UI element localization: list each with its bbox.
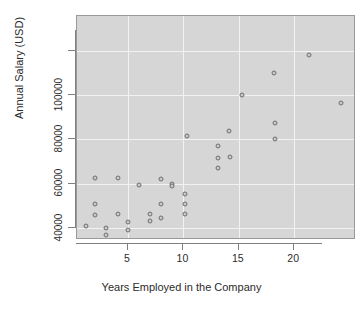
x-axis-line: [76, 243, 322, 244]
data-point: [159, 216, 164, 221]
data-point: [92, 201, 97, 206]
y-axis-tick: [68, 50, 75, 51]
y-axis-tick-label: 100000: [53, 77, 64, 110]
gridline-horizontal: [77, 51, 354, 52]
data-point: [92, 176, 97, 181]
data-point: [83, 223, 88, 228]
data-point: [103, 232, 108, 237]
data-point: [273, 137, 278, 142]
gridline-horizontal: [77, 95, 354, 96]
y-axis-tick-label: 60000: [53, 169, 64, 197]
x-axis-label: Years Employed in the Company: [0, 281, 363, 293]
data-point: [215, 156, 220, 161]
data-point: [227, 155, 232, 160]
data-point: [170, 183, 175, 188]
x-axis-tick-label: 10: [177, 252, 189, 264]
y-axis-tick: [68, 183, 75, 184]
data-point: [306, 53, 311, 58]
data-point: [126, 228, 131, 233]
data-point: [273, 120, 278, 125]
data-point: [272, 70, 277, 75]
x-axis-tick: [238, 243, 239, 250]
x-axis-tick-label: 5: [124, 252, 130, 264]
gridline-vertical: [239, 16, 240, 238]
x-axis-tick-label: 15: [232, 252, 244, 264]
x-axis-tick: [293, 243, 294, 250]
scatter-plot-figure: 5101520400006000080000100000 Years Emplo…: [0, 0, 363, 309]
data-point: [126, 220, 131, 225]
y-axis-tick: [68, 94, 75, 95]
y-axis-tick: [68, 138, 75, 139]
data-point: [148, 219, 153, 224]
data-point: [103, 226, 108, 231]
data-point: [159, 201, 164, 206]
gridline-horizontal: [77, 139, 354, 140]
y-axis-line: [75, 30, 76, 228]
data-point: [116, 211, 121, 216]
data-point: [137, 182, 142, 187]
gridline-vertical: [294, 16, 295, 238]
data-point: [159, 177, 164, 182]
gridline-horizontal: [77, 184, 354, 185]
data-point: [182, 211, 187, 216]
y-axis-tick: [68, 227, 75, 228]
data-point: [338, 100, 343, 105]
gridline-vertical: [128, 16, 129, 238]
gridline-horizontal: [77, 228, 354, 229]
y-axis-label: Annual Salary (USD): [13, 0, 25, 158]
data-point: [182, 201, 187, 206]
data-point: [215, 166, 220, 171]
data-point: [240, 93, 245, 98]
plot-panel: [76, 15, 355, 239]
data-point: [226, 128, 231, 133]
y-axis-tick-label: 40000: [53, 213, 64, 241]
x-axis-tick: [182, 243, 183, 250]
x-axis-tick: [127, 243, 128, 250]
y-axis-tick-label: 80000: [53, 124, 64, 152]
x-axis-tick-label: 20: [287, 252, 299, 264]
data-point: [182, 191, 187, 196]
data-point: [92, 212, 97, 217]
data-point: [215, 144, 220, 149]
data-point: [184, 134, 189, 139]
data-point: [116, 176, 121, 181]
data-point: [148, 211, 153, 216]
